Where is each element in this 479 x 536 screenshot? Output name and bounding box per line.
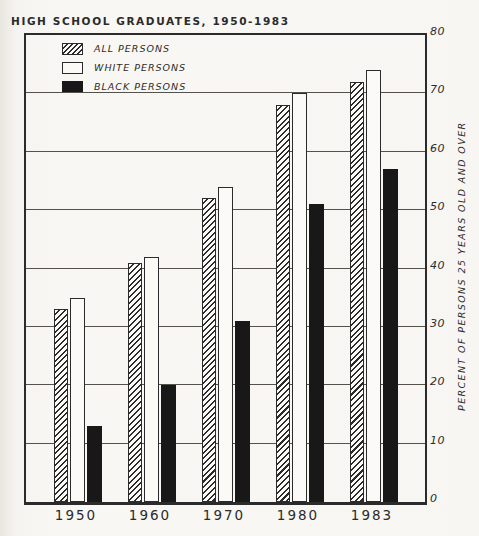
bar-black-1983 [383,169,398,502]
y-tick-40: 40 [430,258,445,271]
y-tick-70: 70 [430,83,445,96]
chart-title: HIGH SCHOOL GRADUATES, 1950-1983 [11,15,290,27]
legend-swatch-hatched-icon [62,43,83,55]
bar-hatched-1950 [54,309,68,502]
y-tick-0: 0 [430,492,438,505]
legend-item-black: BLACK PERSONS [62,80,186,93]
y-tick-80: 80 [430,25,445,38]
chart-page: HIGH SCHOOL GRADUATES, 1950-1983 ALL PER… [0,0,479,536]
x-label-1950: 1950 [41,507,111,523]
legend-label: WHITE PERSONS [94,62,186,73]
legend-label: BLACK PERSONS [94,81,186,92]
bar-black-1970 [235,321,250,502]
y-tick-60: 60 [430,141,445,154]
legend-swatch-white-icon [62,62,83,74]
plot-area: ALL PERSONSWHITE PERSONSBLACK PERSONS [24,33,427,505]
bar-hatched-1960 [128,263,142,502]
bar-black-1950 [87,426,102,502]
legend-item-white: WHITE PERSONS [62,61,186,74]
x-label-1970: 1970 [189,507,259,523]
legend-swatch-black-icon [62,81,83,93]
bar-black-1980 [309,204,324,502]
bar-white-1983 [366,70,381,502]
legend: ALL PERSONSWHITE PERSONSBLACK PERSONS [62,42,186,99]
y-tick-30: 30 [430,316,445,329]
bar-white-1950 [70,298,85,502]
bar-hatched-1983 [350,82,364,502]
bar-white-1980 [292,93,307,502]
x-label-1980: 1980 [263,507,333,523]
bar-white-1960 [144,257,159,502]
y-tick-20: 20 [430,375,445,388]
x-label-1983: 1983 [337,507,407,523]
bar-hatched-1970 [202,198,216,502]
y-tick-10: 10 [430,433,445,446]
bar-hatched-1980 [276,105,290,502]
bar-white-1970 [218,187,233,502]
y-axis-label: PERCENT OF PERSONS 25 YEARS OLD AND OVER [456,88,474,444]
y-tick-50: 50 [430,200,445,213]
legend-item-hatched: ALL PERSONS [62,42,186,55]
x-label-1960: 1960 [115,507,185,523]
legend-label: ALL PERSONS [94,43,170,54]
bar-black-1960 [161,385,176,502]
